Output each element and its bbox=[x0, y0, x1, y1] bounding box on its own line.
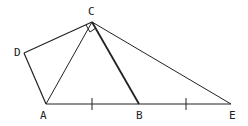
label-E: E bbox=[229, 109, 236, 122]
segment-CB bbox=[92, 22, 139, 104]
label-D: D bbox=[14, 46, 21, 59]
label-B: B bbox=[136, 109, 143, 122]
label-A: A bbox=[40, 109, 47, 122]
segment-CE bbox=[92, 22, 231, 104]
geometry-diagram: C D A B E bbox=[0, 0, 248, 126]
segment-DC bbox=[24, 22, 92, 53]
diagram-svg: C D A B E bbox=[0, 0, 248, 126]
segment-AD bbox=[24, 53, 46, 104]
label-C: C bbox=[88, 5, 95, 18]
segment-CA bbox=[46, 22, 92, 104]
